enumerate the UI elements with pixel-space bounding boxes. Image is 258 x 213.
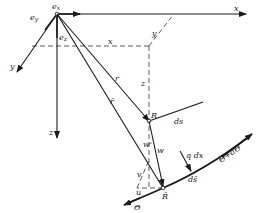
point-R-bar xyxy=(161,186,165,190)
label-theta-plus-dtheta: Θ+dΘ xyxy=(217,143,243,165)
label-e-z: ez xyxy=(59,33,68,42)
label-axis-z: z xyxy=(48,128,54,137)
beam-deflection-diagram: ex ey ez x y z x y z r r̄ R R̄ ds ds̄ w … xyxy=(0,0,258,213)
label-e-y: ey xyxy=(30,13,39,23)
label-R: R xyxy=(150,111,157,120)
label-theta: Θ xyxy=(134,203,141,212)
label-ds-bar: ds̄ xyxy=(188,175,198,184)
label-r: r xyxy=(115,74,120,83)
label-u: u xyxy=(136,188,141,197)
label-axis-y: y xyxy=(9,62,15,71)
label-q-dx: q dx xyxy=(186,151,204,160)
label-axis-x: x xyxy=(234,4,239,13)
label-w-prime: w' xyxy=(143,140,152,149)
label-coord-x: x xyxy=(108,37,113,46)
label-R-bar: R̄ xyxy=(161,192,168,201)
label-r-bar: r̄ xyxy=(110,97,115,106)
label-v: v xyxy=(137,170,142,179)
label-coord-y: y xyxy=(151,29,157,38)
label-e-x: ex xyxy=(52,2,61,11)
position-vector-r xyxy=(57,14,149,121)
label-coord-z: z xyxy=(140,79,146,88)
label-ds: ds xyxy=(174,117,183,126)
e-y-unit-vector xyxy=(45,14,57,30)
label-w: w xyxy=(157,146,164,155)
